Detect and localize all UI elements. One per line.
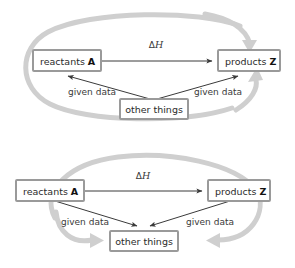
top-node-other-things[interactable]: other things	[120, 99, 188, 119]
bottom-grey-arrow-left-head	[90, 233, 104, 248]
bottom-given-data-left-label: given data	[61, 217, 109, 227]
bottom-node-reactants-label: reactants A	[23, 186, 79, 197]
figure-root: ΔH given data given data reactants A pro…	[0, 0, 295, 268]
diagram-canvas: ΔH given data given data reactants A pro…	[0, 0, 295, 268]
bottom-node-other-things[interactable]: other things	[110, 231, 178, 251]
top-node-other-things-label: other things	[125, 104, 183, 115]
bottom-node-other-things-label: other things	[115, 236, 173, 247]
bottom-node-products[interactable]: products Z	[208, 180, 270, 201]
top-enthalpy-label: ΔH	[149, 39, 164, 50]
bottom-enthalpy-label: ΔH	[136, 170, 151, 181]
bottom-diagram: ΔH given data given data reactants A pro…	[16, 155, 270, 251]
top-node-reactants-label: reactants A	[40, 56, 96, 67]
top-given-data-left-label: given data	[68, 87, 116, 97]
bottom-node-reactants[interactable]: reactants A	[16, 180, 84, 201]
top-node-products-label: products Z	[225, 56, 277, 67]
top-given-data-right-label: given data	[194, 87, 242, 97]
bottom-node-products-label: products Z	[215, 186, 267, 197]
top-node-reactants[interactable]: reactants A	[33, 50, 101, 71]
bottom-given-data-right-label: given data	[186, 217, 234, 227]
top-node-products[interactable]: products Z	[218, 50, 280, 71]
bottom-grey-arrow-right-head	[206, 233, 220, 248]
top-diagram: ΔH given data given data reactants A pro…	[26, 14, 280, 119]
